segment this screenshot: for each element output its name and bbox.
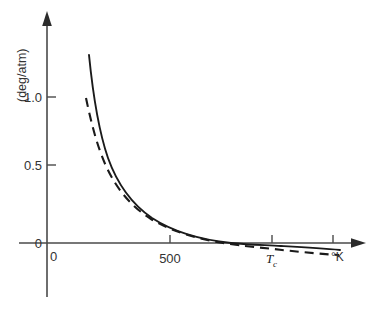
chart-figure: (deg/atm) 1.0 0.5 0 0 500 T c °K (0, 0, 373, 309)
y-tick-label-0: 0 (35, 236, 42, 251)
y-tick-label-0-5: 0.5 (24, 158, 42, 173)
series-solid-curve (89, 55, 340, 250)
x-axis-arrow-icon (351, 238, 366, 248)
x-tick-label-0: 0 (50, 249, 57, 264)
critical-temp-subscript: c (273, 259, 277, 269)
x-tick-label-500: 500 (159, 251, 181, 266)
y-tick-label-1-0: 1.0 (24, 90, 42, 105)
series-dashed-curve (86, 98, 339, 255)
y-axis-arrow-icon (42, 11, 52, 26)
x-axis-unit-label: °K (331, 250, 344, 264)
chart-svg: (deg/atm) 1.0 0.5 0 0 500 T c °K (0, 0, 373, 309)
